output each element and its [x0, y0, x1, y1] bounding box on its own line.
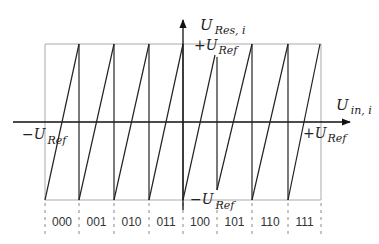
bottom-ref-label: −URef	[190, 191, 236, 212]
right-ref-label: +URef	[303, 125, 348, 145]
y-axis-label: URes, i	[200, 16, 246, 37]
code-label: 011	[156, 215, 175, 229]
code-label: 010	[121, 215, 141, 229]
top-ref-label: +URef	[194, 37, 239, 57]
code-label: 111	[295, 215, 314, 229]
code-label: 101	[224, 215, 244, 229]
code-label: 110	[260, 215, 279, 229]
code-label: 000	[52, 215, 72, 229]
residue-transfer-diagram: URes, i Uin, i +URef −URef −URef +URef 0…	[0, 0, 379, 244]
code-label: 001	[86, 215, 106, 229]
code-label: 100	[190, 215, 210, 229]
x-axis-label: Uin, i	[336, 96, 372, 117]
